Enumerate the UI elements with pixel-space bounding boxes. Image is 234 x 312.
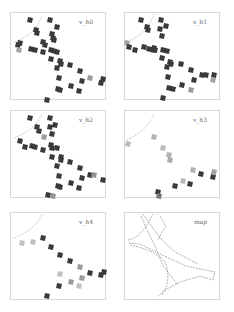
scatter-point <box>87 270 93 276</box>
scatter-point <box>164 64 170 70</box>
scatter-point <box>67 258 73 264</box>
scatter-point <box>125 141 131 147</box>
scatter-point <box>190 167 196 173</box>
scatter-point <box>47 17 53 23</box>
scatter-point <box>179 82 185 88</box>
scatter-point <box>44 97 50 103</box>
scatter-point <box>87 75 93 81</box>
scatter-point <box>79 275 85 281</box>
scatter-point <box>132 47 138 53</box>
scatter-point <box>138 17 144 23</box>
scatter-point <box>49 31 55 37</box>
scatter-point <box>56 283 62 289</box>
scatter-point <box>79 78 85 84</box>
scatter-point <box>27 17 33 23</box>
scatter-point <box>36 128 42 134</box>
scatter-point <box>187 181 193 187</box>
scatter-point <box>98 80 104 86</box>
map-path <box>128 214 153 240</box>
scatter-point <box>152 47 158 53</box>
scatter-point <box>57 87 63 93</box>
scatter-point <box>166 152 172 158</box>
dashed-arc <box>14 214 42 238</box>
scatter-point <box>19 240 25 246</box>
scatter-point <box>51 37 57 43</box>
scatter-markers <box>15 17 217 299</box>
scatter-point <box>56 75 62 81</box>
scatter-point <box>56 173 62 179</box>
scatter-point <box>34 30 40 36</box>
scatter-point <box>47 124 53 130</box>
scatter-point <box>16 47 22 53</box>
scatter-point <box>157 26 163 32</box>
scatter-point <box>165 74 171 80</box>
scatter-point <box>77 68 83 74</box>
plot-overlay <box>0 0 234 312</box>
scatter-point <box>76 185 82 191</box>
scatter-point <box>22 144 28 150</box>
scatter-point <box>54 163 60 169</box>
scatter-point <box>164 48 170 54</box>
scatter-point <box>40 49 46 55</box>
scatter-point <box>17 138 23 144</box>
scatter-point <box>159 33 165 39</box>
scatter-point <box>57 184 63 190</box>
scatter-point <box>45 192 51 198</box>
scatter-point <box>163 23 169 29</box>
scatter-point <box>211 72 217 78</box>
map-paths <box>128 214 215 296</box>
scatter-point <box>57 252 63 258</box>
scatter-point <box>151 134 157 140</box>
scatter-point <box>170 86 176 92</box>
scatter-point <box>188 67 194 73</box>
scatter-point <box>58 157 64 163</box>
scatter-point <box>156 193 162 199</box>
scatter-point <box>77 165 83 171</box>
scatter-point <box>160 145 166 151</box>
scatter-point <box>54 49 60 55</box>
scatter-point <box>145 27 151 33</box>
scatter-point <box>77 264 83 270</box>
scatter-point <box>32 47 38 53</box>
map-path <box>130 245 168 295</box>
scatter-point <box>49 145 55 151</box>
scatter-point <box>188 87 194 93</box>
scatter-point <box>47 115 53 121</box>
scatter-point <box>41 134 47 140</box>
map-path <box>129 243 215 296</box>
scatter-point <box>76 283 82 289</box>
scatter-point <box>27 115 33 121</box>
scatter-point <box>160 95 166 101</box>
scatter-point <box>44 293 50 299</box>
scatter-point <box>30 239 36 245</box>
scatter-point <box>126 44 132 50</box>
scatter-point <box>172 183 178 189</box>
scatter-point <box>49 131 55 137</box>
scatter-point <box>67 159 73 165</box>
dashed-arc <box>127 114 154 140</box>
scatter-point <box>50 193 56 199</box>
scatter-point <box>49 154 55 160</box>
scatter-point <box>42 42 48 48</box>
scatter-point <box>100 177 106 183</box>
scatter-point <box>68 279 74 285</box>
scatter-point <box>54 145 60 151</box>
scatter-point <box>167 157 173 163</box>
scatter-point <box>79 175 85 181</box>
scatter-point <box>52 122 58 128</box>
scatter-point <box>57 271 63 277</box>
scatter-point <box>210 174 216 180</box>
scatter-point <box>158 17 164 23</box>
scatter-point <box>68 180 74 186</box>
scatter-point <box>54 24 60 30</box>
scatter-point <box>211 169 217 175</box>
scatter-point <box>159 55 165 61</box>
scatter-point <box>91 172 97 178</box>
scatter-point <box>17 40 23 46</box>
scatter-point <box>198 171 204 177</box>
scatter-point <box>68 83 74 89</box>
scatter-point <box>178 61 184 67</box>
scatter-point <box>76 88 82 94</box>
scatter-point <box>48 244 54 250</box>
scatter-point <box>191 77 197 83</box>
